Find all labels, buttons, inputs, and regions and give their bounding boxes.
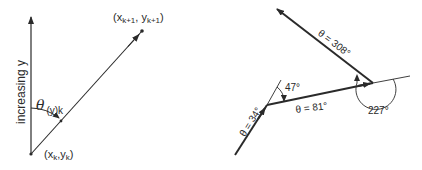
end-sub-x: k+1 bbox=[122, 16, 135, 25]
end-point bbox=[140, 29, 144, 33]
reference-extension-34 bbox=[267, 80, 281, 105]
start-open: (x bbox=[44, 148, 53, 160]
chain-segment-vector bbox=[31, 31, 142, 154]
segment-theta-308 bbox=[277, 9, 373, 83]
start-point-label: (xk,yk) bbox=[44, 149, 73, 162]
diagram-canvas bbox=[0, 0, 422, 170]
theta-subscript: (y)k bbox=[46, 105, 63, 116]
arc-end-point bbox=[60, 120, 63, 123]
theta-label: θ(y)k bbox=[36, 98, 63, 112]
end-mid: , y bbox=[135, 11, 147, 23]
start-mid: ,y bbox=[57, 148, 66, 160]
increasing-y-label: increasing y bbox=[15, 57, 27, 127]
angle-arc-227-head bbox=[354, 74, 360, 81]
end-point-label: (xk+1, yk+1) bbox=[113, 12, 164, 25]
left-diagram bbox=[29, 17, 143, 156]
start-point bbox=[29, 152, 32, 155]
start-close: ) bbox=[70, 148, 74, 160]
label-angle-47: 47° bbox=[285, 83, 300, 93]
segment-arrowhead bbox=[128, 35, 139, 47]
segment-81-arrowhead bbox=[358, 84, 370, 86]
end-open: (x bbox=[113, 11, 122, 23]
label-angle-227: 227° bbox=[368, 106, 389, 116]
end-sub-y: k+1 bbox=[147, 16, 160, 25]
reference-extension-81 bbox=[373, 76, 410, 83]
angle-arc-47 bbox=[277, 87, 284, 101]
end-close: ) bbox=[160, 11, 164, 23]
theta-symbol: θ bbox=[36, 97, 44, 113]
